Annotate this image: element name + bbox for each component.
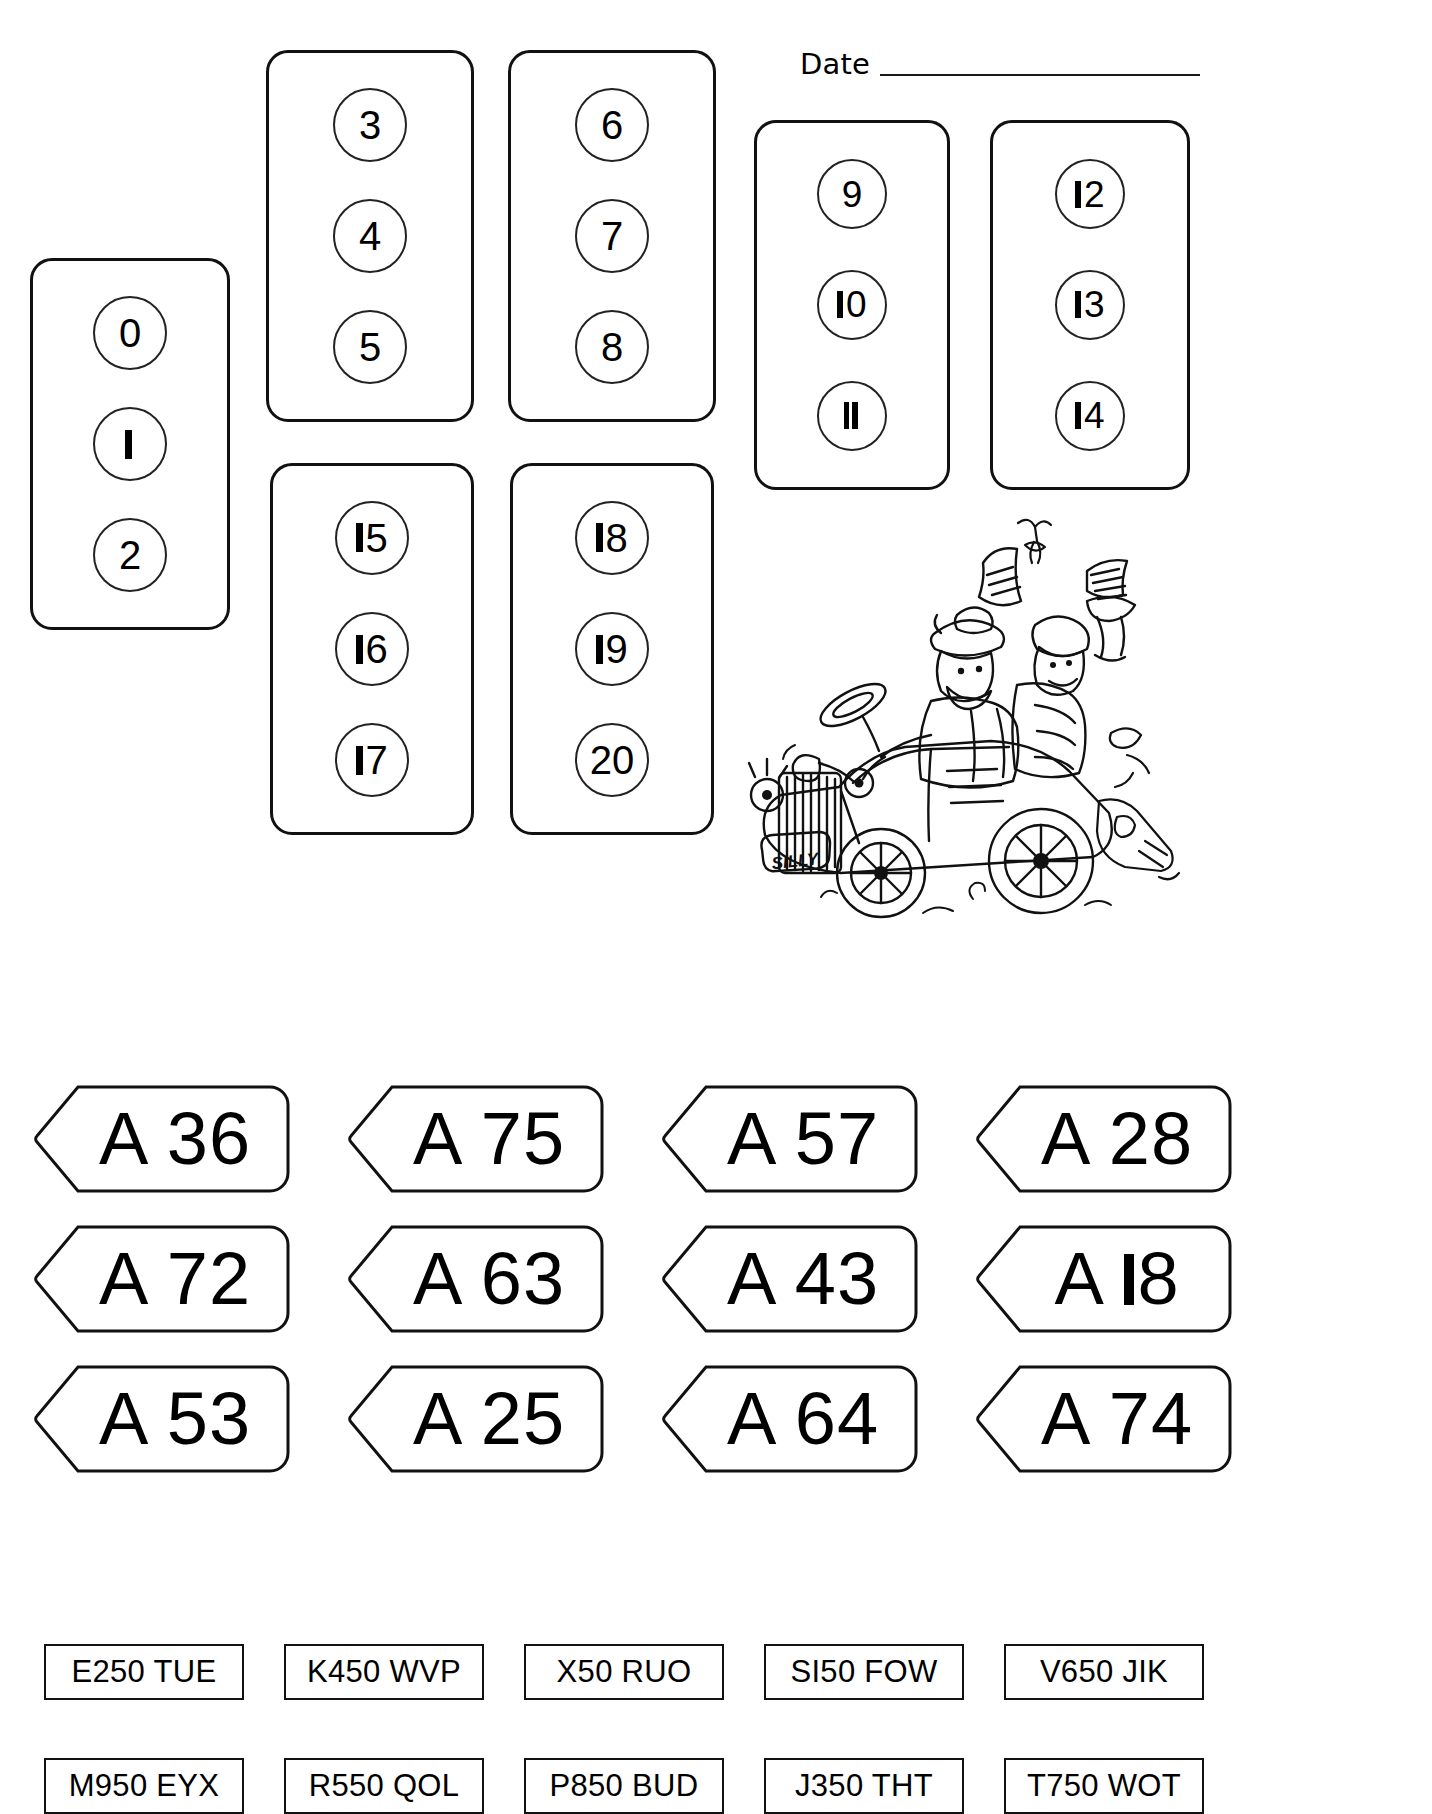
road-sign-label: A 25 [387,1382,565,1456]
registration-plate[interactable]: T750 WOT [1004,1758,1204,1814]
digit-one-stroke [844,402,850,429]
number-circle[interactable] [817,381,887,451]
road-sign-badge[interactable]: A 74 [976,1365,1232,1473]
road-sign-label: A 74 [1015,1382,1193,1456]
registration-plate[interactable]: J350 THT [764,1758,964,1814]
number-value: 3 [359,105,381,145]
date-write-line[interactable] [880,74,1200,76]
registration-plate[interactable]: SI50 FOW [764,1644,964,1700]
number-circle[interactable]: 5 [333,310,407,384]
registration-plate-text: P850 BUD [550,1768,699,1804]
number-card-9-11: 9 0 [754,120,950,490]
number-value: 3 [1075,286,1104,323]
number-circle[interactable]: 4 [1055,381,1125,451]
number-value [844,397,861,434]
number-value: 7 [356,740,387,780]
number-value: 9 [596,629,627,669]
road-sign-label: A 36 [73,1102,251,1176]
front-wheel [837,829,925,917]
digit-one-stroke [852,402,858,429]
digit-one-stroke [837,291,843,318]
road-sign-badge[interactable]: A 63 [348,1225,604,1333]
number-circle[interactable]: 4 [333,199,407,273]
road-sign-badge[interactable]: A 43 [662,1225,918,1333]
number-circle[interactable]: 0 [817,270,887,340]
registration-plate-text: SI50 FOW [790,1654,937,1690]
passenger-middle [931,607,1004,709]
number-circle[interactable] [93,407,167,481]
number-circle[interactable]: 3 [333,88,407,162]
number-circle[interactable]: 6 [575,88,649,162]
registration-plate[interactable]: K450 WVP [284,1644,484,1700]
number-circle[interactable]: 0 [93,296,167,370]
number-circle[interactable]: 9 [817,159,887,229]
bird-icon [1018,520,1051,563]
road-sign-label: A 75 [387,1102,565,1176]
number-circle[interactable]: 7 [335,723,409,797]
registration-plate-text: R550 QOL [309,1768,460,1804]
road-sign-label: A 28 [1015,1102,1193,1176]
road-sign-row: A 36 A 75 A 57 A 28 [34,1085,1232,1193]
registration-plate[interactable]: M950 EYX [44,1758,244,1814]
road-sign-badge[interactable]: A 64 [662,1365,918,1473]
number-circle[interactable]: 9 [575,612,649,686]
pennant [1087,560,1127,597]
number-value [125,424,134,464]
number-circle[interactable]: 5 [335,501,409,575]
road-sign-badge[interactable]: A 75 [348,1085,604,1193]
road-sign-badge[interactable]: A 8 [976,1225,1232,1333]
date-field: Date [800,50,1200,81]
number-value: 8 [601,327,623,367]
digit-one-stroke [125,430,131,459]
number-value: 4 [1075,397,1104,434]
road-sign-label: A 43 [701,1242,879,1316]
road-sign-badge[interactable]: A 28 [976,1085,1232,1193]
number-value: 5 [356,518,387,558]
registration-plate-text: V650 JIK [1040,1654,1168,1690]
number-circle[interactable]: 7 [575,199,649,273]
steering-wheel [815,676,892,751]
number-circle[interactable]: 3 [1055,270,1125,340]
digit-one-stroke [1075,291,1081,318]
number-value: 4 [359,216,381,256]
registration-plate[interactable]: R550 QOL [284,1758,484,1814]
road-sign-badge[interactable]: A 57 [662,1085,918,1193]
number-circle[interactable]: 2 [1055,159,1125,229]
number-value: 2 [119,535,141,575]
road-sign-badge[interactable]: A 25 [348,1365,604,1473]
road-sign-label: A 8 [1028,1242,1179,1316]
registration-plate[interactable]: P850 BUD [524,1758,724,1814]
road-sign-badge[interactable]: A 72 [34,1225,290,1333]
registration-plate[interactable]: V650 JIK [1004,1644,1204,1700]
registration-plate[interactable]: E250 TUE [44,1644,244,1700]
digit-one-stroke [596,523,602,552]
waving-arm [1087,597,1135,661]
number-card-6-8: 6 7 8 [508,50,716,422]
car-number-plate: SILLY [760,829,832,874]
number-card-0-2: 0 2 [30,258,230,630]
number-value: 7 [601,216,623,256]
registration-plate[interactable]: X50 RUO [524,1644,724,1700]
number-circle[interactable]: 8 [575,310,649,384]
number-value: 20 [590,740,635,780]
digit-one-stroke [596,635,602,664]
number-value: 8 [596,518,627,558]
digit-one-stroke [356,635,362,664]
number-card-15-17: 5 6 7 [270,463,474,835]
number-circle[interactable]: 8 [575,501,649,575]
road-sign-badge[interactable]: A 53 [34,1365,290,1473]
road-sign-label: A 72 [73,1242,251,1316]
number-card-3-5: 3 4 5 [266,50,474,422]
number-value: 0 [119,313,141,353]
number-circle[interactable]: 6 [335,612,409,686]
digit-one-stroke [1075,181,1081,208]
number-value: 9 [842,176,863,213]
number-circle[interactable]: 20 [575,723,649,797]
road-sign-badge[interactable]: A 36 [34,1085,290,1193]
number-circle[interactable]: 2 [93,518,167,592]
number-card-12-14: 2 3 4 [990,120,1190,490]
road-sign-row: A 72 A 63 A 43 A 8 [34,1225,1232,1333]
date-label: Date [800,50,870,81]
registration-plate-text: T750 WOT [1027,1768,1181,1804]
registration-plate-text: M950 EYX [69,1768,220,1804]
